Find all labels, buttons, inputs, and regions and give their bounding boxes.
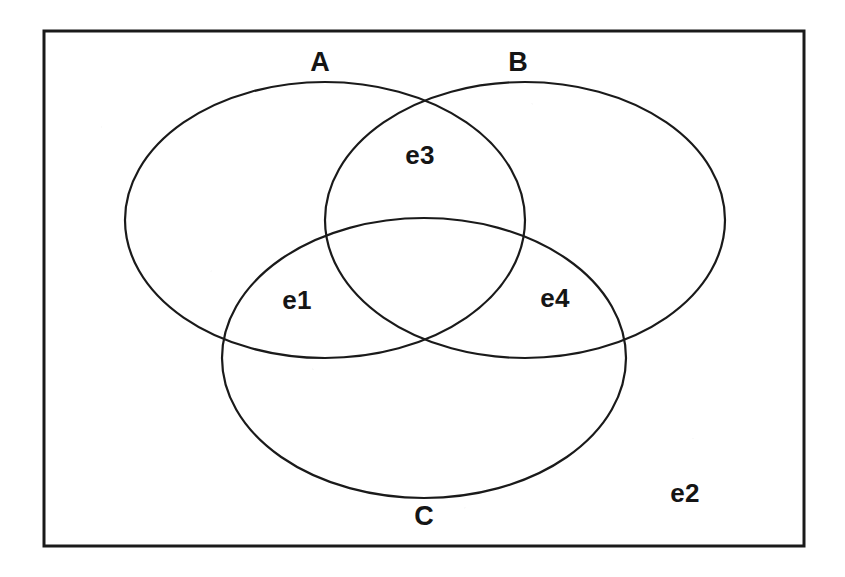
set-label-c: C bbox=[414, 501, 434, 532]
set-label-b: B bbox=[508, 47, 528, 78]
region-label-e1: e1 bbox=[282, 285, 311, 316]
region-label-e2: e2 bbox=[670, 478, 699, 509]
venn-diagram-canvas bbox=[0, 0, 845, 577]
venn-diagram-figure: A B C e1 e2 e3 e4 bbox=[0, 0, 845, 577]
region-label-e3: e3 bbox=[405, 140, 434, 171]
region-label-e4: e4 bbox=[540, 283, 569, 314]
set-circle-c bbox=[222, 218, 626, 498]
universal-set-rectangle bbox=[44, 31, 804, 546]
set-label-a: A bbox=[310, 47, 330, 78]
